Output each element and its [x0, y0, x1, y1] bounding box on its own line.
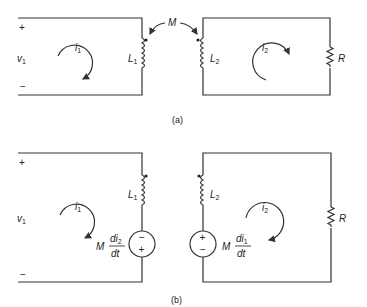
- dot-marker-l1: [144, 174, 147, 177]
- inductor-label-l1: L1: [128, 53, 138, 65]
- inductor-label-l2: L2: [210, 189, 220, 201]
- coupled-inductor-diagram: + − v1 i1 L1 M R L2 i2 (a): [0, 0, 367, 307]
- mutual-arrow-right-icon: [180, 23, 197, 34]
- dot-marker-l1: [144, 38, 147, 41]
- inductor-l1-icon: [142, 175, 145, 207]
- resistor-label-r: R: [338, 53, 345, 64]
- part-a: + − v1 i1 L1 M R L2 i2 (a): [17, 17, 345, 125]
- inductor-l2-icon: [201, 175, 204, 207]
- fraction-denominator: dt: [237, 248, 247, 259]
- mutual-inductance: M: [150, 17, 197, 34]
- dep-source-right-top-sign: +: [200, 232, 206, 243]
- dep-source-left-top-sign: −: [139, 232, 145, 243]
- part-b: − + M di2 dt + − v1 i1 L1 + −: [17, 153, 346, 305]
- fraction-numerator: di2: [110, 233, 122, 245]
- dep-source-right-bottom-sign: −: [200, 244, 206, 255]
- dep-source-right-label: M di1 dt: [222, 233, 251, 259]
- part-a-left-loop: + − v1 i1 L1: [17, 18, 148, 95]
- minus-sign: −: [20, 269, 26, 280]
- part-b-right-loop: + − M di1 dt R L2 i2: [190, 153, 346, 282]
- resistor-label-r: R: [339, 213, 346, 224]
- dot-marker-l2: [197, 174, 200, 177]
- dot-marker-l2: [196, 38, 199, 41]
- inductor-label-l2: L2: [210, 53, 220, 65]
- inductor-l2-icon: [201, 38, 204, 70]
- part-b-left-loop: − + M di2 dt + − v1 i1 L1: [17, 153, 155, 282]
- svg-text:M: M: [96, 241, 105, 252]
- plus-sign: +: [19, 157, 25, 168]
- plus-sign: +: [19, 22, 25, 33]
- dep-source-left-label: M di2 dt: [96, 233, 125, 259]
- svg-text:M: M: [222, 241, 231, 252]
- current-label-i1: i1: [75, 201, 81, 213]
- minus-sign: −: [20, 81, 26, 92]
- current-label-i1: i1: [75, 42, 81, 54]
- source-label-v1: v1: [17, 213, 26, 225]
- fraction-denominator: dt: [111, 248, 121, 259]
- resistor-r-icon: [327, 47, 333, 67]
- current-arrow-i2-icon: [253, 43, 289, 80]
- inductor-l1-icon: [142, 38, 145, 70]
- dep-source-left-bottom-sign: +: [139, 244, 145, 255]
- mutual-arrow-left-icon: [150, 23, 165, 34]
- mutual-label-m: M: [168, 17, 177, 28]
- part-a-right-loop: R L2 i2: [196, 18, 345, 95]
- caption-a: (a): [172, 115, 183, 125]
- inductor-label-l1: L1: [128, 189, 138, 201]
- current-label-i2: i2: [262, 202, 268, 214]
- caption-b: (b): [171, 295, 182, 305]
- fraction-numerator: di1: [236, 233, 248, 245]
- source-label-v1: v1: [17, 53, 26, 65]
- resistor-r-icon: [328, 207, 334, 227]
